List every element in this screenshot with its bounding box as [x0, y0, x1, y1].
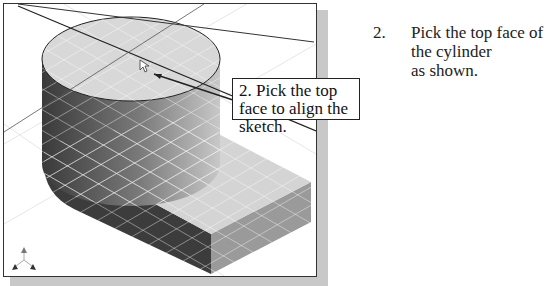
step-number: 2.	[373, 23, 386, 42]
xyz-triad-icon	[12, 247, 36, 270]
model-view[interactable]	[4, 4, 316, 276]
callout-box: 2. Pick the top face to align the sketch…	[232, 78, 360, 120]
instruction-step: 2. Pick the top face of the cylinder as …	[411, 23, 560, 80]
step-text-line1: Pick the top face of the cylinder	[411, 23, 560, 61]
step-text-line2: as shown.	[411, 61, 560, 80]
graphics-viewport[interactable]	[3, 3, 317, 277]
